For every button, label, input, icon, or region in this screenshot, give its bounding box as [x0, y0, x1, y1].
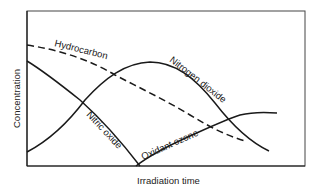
series-oxidant-ozone	[136, 112, 277, 166]
label-nitric-oxide: Nitric oxide	[85, 109, 125, 151]
chart: Hydrocarbon Nitrogen dioxide Nitric oxid…	[0, 0, 317, 191]
series-nitric-oxide	[27, 61, 140, 166]
series-nitrogen-dioxide	[27, 62, 269, 152]
label-nitrogen-dioxide: Nitrogen dioxide	[168, 54, 229, 105]
label-oxidant-ozone: Oxidant ozone	[139, 127, 199, 162]
label-hydrocarbon: Hydrocarbon	[54, 37, 109, 61]
y-axis-label: Concentration	[11, 69, 22, 128]
x-axis-label: Irradiation time	[137, 175, 200, 186]
